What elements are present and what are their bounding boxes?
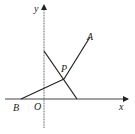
point-p-label: P (60, 63, 67, 74)
y-axis-label: y (33, 3, 39, 14)
point-a-label: A (86, 31, 94, 42)
origin-label: O (34, 101, 41, 112)
coordinate-diagram: y x O B P A (0, 0, 135, 134)
line-b-to-p (21, 79, 64, 99)
point-b-label: B (13, 102, 19, 113)
line-y-to-x-intercept (44, 51, 77, 99)
line-p-to-a (64, 37, 90, 79)
x-axis-label: x (118, 101, 124, 112)
